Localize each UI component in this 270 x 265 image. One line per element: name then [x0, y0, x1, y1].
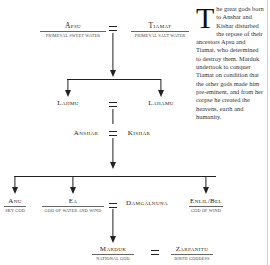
apsu-name: Apsu	[40, 22, 106, 30]
tiamat-epithet: Primeval salt water	[131, 33, 189, 38]
apsu-underline	[40, 31, 106, 32]
arrow-down-icon	[110, 70, 116, 77]
union-marduk-zarpanitu	[151, 250, 159, 255]
zarpanitu-epithet: Birth goddess	[171, 256, 213, 261]
arrow-down-icon	[110, 162, 116, 169]
node-damgalnuna: Damgalnuna	[126, 199, 168, 207]
anu-name: Anu	[4, 197, 26, 205]
union-anshar-kishar	[109, 131, 117, 136]
page-edge-border	[267, 0, 268, 265]
drop-cap: T	[196, 6, 214, 30]
node-anshar: Anshar	[74, 129, 98, 137]
marduk-epithet: National god	[92, 256, 134, 261]
node-marduk: Marduk National god	[92, 245, 134, 261]
node-kishar: Kishar	[128, 129, 150, 137]
line-gen1-down	[112, 33, 113, 71]
arrow-down-icon	[70, 187, 76, 194]
tiamat-underline	[131, 31, 189, 32]
arrow-down-icon	[158, 90, 164, 97]
union-ea-damgalnuna	[109, 203, 117, 208]
node-apsu: Apsu Primeval sweet water	[40, 22, 106, 38]
line-gen2-branch	[67, 79, 161, 80]
anu-underline	[4, 206, 26, 207]
apsu-epithet: Primeval sweet water	[40, 33, 106, 38]
ea-epithet: God of water and wind	[42, 208, 104, 213]
union-apsu-tiamat	[109, 26, 117, 31]
lahmu-name: Lahmu	[57, 99, 79, 107]
zarpanitu-name: Zarpanitu	[171, 245, 213, 253]
node-lahmu: Lahmu	[57, 99, 79, 107]
enlil-bel-underline	[189, 206, 223, 207]
arrow-down-icon	[65, 90, 71, 97]
node-tiamat: Tiamat Primeval salt water	[131, 22, 189, 38]
node-lahamu: Lahamu	[148, 99, 174, 107]
ea-name: Ea	[42, 197, 104, 205]
node-enlil-bel: Enlil/Bel God of wind	[189, 197, 223, 213]
tiamat-name: Tiamat	[131, 22, 189, 30]
node-anu: Anu Sky god	[4, 197, 26, 213]
arrow-down-icon	[110, 236, 116, 243]
anu-epithet: Sky god	[4, 208, 26, 213]
line-gen4-down	[112, 209, 113, 237]
ea-underline	[42, 206, 104, 207]
arrow-down-icon	[203, 187, 209, 194]
line-gen4-branch	[14, 176, 216, 177]
marduk-underline	[92, 254, 134, 255]
union-lahmu-lahamu	[109, 102, 117, 107]
enlil-bel-name: Enlil/Bel	[189, 197, 223, 205]
line-gen2-down	[112, 109, 113, 124]
zarpanitu-underline	[171, 254, 213, 255]
node-zarpanitu: Zarpanitu Birth goddess	[171, 245, 213, 261]
arrow-down-icon	[12, 187, 18, 194]
node-ea: Ea God of water and wind	[42, 197, 104, 213]
marduk-name: Marduk	[92, 245, 134, 253]
sidebar-paragraph: The great gods born to Anshar and Kishar…	[196, 5, 264, 121]
line-gen3-down	[112, 138, 113, 163]
anshar-name: Anshar	[74, 129, 98, 137]
lahamu-name: Lahamu	[148, 99, 174, 107]
damgalnuna-name: Damgalnuna	[126, 199, 168, 207]
kishar-name: Kishar	[128, 129, 150, 137]
enlil-bel-epithet: God of wind	[189, 208, 223, 213]
